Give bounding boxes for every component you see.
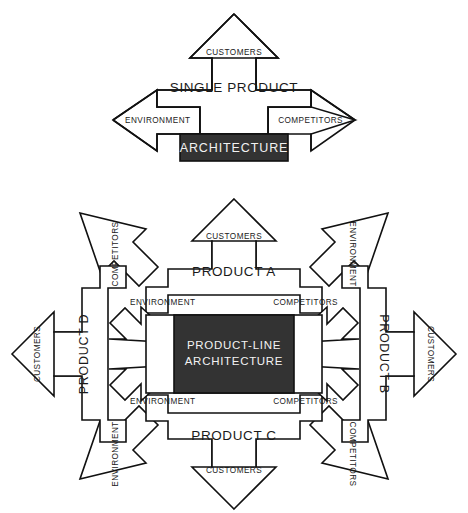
product-line-architecture-box [174, 315, 294, 393]
customers-label-right: CUSTOMERS [426, 326, 435, 382]
environment-label-bottom-left: ENVIRONMENT [111, 421, 120, 486]
environment-label-left: ENVIRONMENT [125, 116, 190, 125]
customers-label-top: CUSTOMERS [206, 232, 262, 241]
product-b-label: PRODUCT B [377, 314, 391, 394]
product-d-label: PRODUCT D [77, 314, 91, 394]
product-line-label-line2: ARCHITECTURE [185, 355, 284, 367]
competitors-label-right: COMPETITORS [278, 116, 343, 125]
competitors-label-inner-bottom-right: COMPETITORS [273, 397, 338, 406]
single-product-diagram: SINGLE PRODUCT CUSTOMERS ENVIRONMENT COM… [0, 0, 468, 195]
environment-label-inner-bottom-left: ENVIRONMENT [130, 397, 195, 406]
customers-label-left: CUSTOMERS [33, 326, 42, 382]
customers-label-top: CUSTOMERS [206, 48, 262, 57]
diagram-canvas: SINGLE PRODUCT CUSTOMERS ENVIRONMENT COM… [0, 0, 468, 513]
customers-label-bottom: CUSTOMERS [206, 466, 262, 475]
competitors-label-inner-top-right: COMPETITORS [273, 298, 338, 307]
competitors-label-top-left: COMPETITORS [111, 221, 120, 286]
competitors-label-bottom-right: COMPETITORS [348, 422, 357, 487]
product-a-label: PRODUCT A [192, 264, 276, 279]
environment-label-inner-top-left: ENVIRONMENT [130, 298, 195, 307]
product-c-label: PRODUCT C [191, 428, 276, 443]
environment-label-top-right: ENVIRONMENT [348, 221, 357, 286]
single-product-label: SINGLE PRODUCT [170, 80, 298, 95]
product-line-label-line1: PRODUCT-LINE [187, 339, 281, 351]
architecture-label: ARCHITECTURE [180, 141, 289, 155]
product-line-architecture-diagram: CUSTOMERS CUSTOMERS CUSTOMERS CUSTOMERS … [0, 195, 468, 513]
